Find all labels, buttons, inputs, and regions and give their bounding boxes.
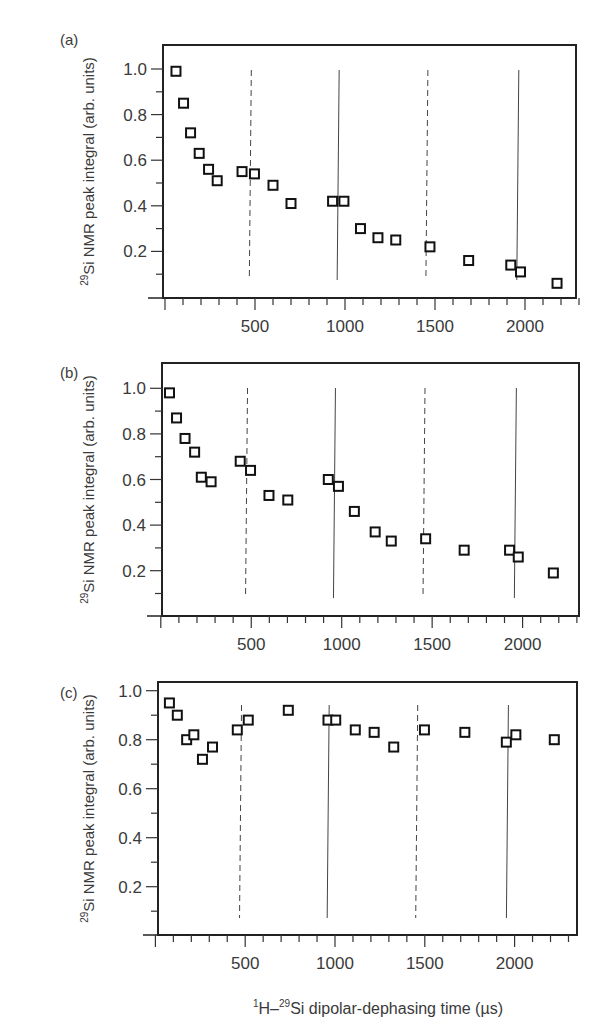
solid-reference-line bbox=[514, 388, 516, 598]
chart-canvas: (a)0.20.40.60.81.050010001500200029Si NM… bbox=[0, 0, 608, 1031]
x-axis-label-part-2: Si dipolar-dephasing time (µs) bbox=[290, 1000, 503, 1017]
panels: (a)0.20.40.60.81.050010001500200029Si NM… bbox=[60, 31, 579, 973]
x-axis-label-part-1: H– bbox=[259, 1000, 280, 1017]
y-axis-label: 29Si NMR peak integral (arb. units) bbox=[79, 694, 97, 923]
data-point-square-marker bbox=[356, 224, 365, 233]
dashed-reference-line bbox=[416, 705, 418, 918]
y-tick-label: 1.0 bbox=[118, 682, 142, 701]
data-point-square-marker bbox=[334, 482, 343, 491]
data-point-square-marker bbox=[464, 256, 473, 265]
x-tick-label: 2000 bbox=[496, 954, 534, 973]
dashed-reference-line bbox=[246, 388, 248, 598]
data-point-square-marker bbox=[505, 546, 514, 555]
data-point-square-marker bbox=[502, 738, 511, 747]
data-point-square-marker bbox=[549, 568, 558, 577]
y-tick-label: 0.4 bbox=[118, 829, 142, 848]
data-point-square-marker bbox=[181, 434, 190, 443]
x-axis-label: 1H–29Si dipolar-dephasing time (µs) bbox=[253, 998, 503, 1017]
data-point-square-marker bbox=[421, 534, 430, 543]
panel-label: (c) bbox=[60, 684, 78, 701]
data-point-square-marker bbox=[460, 728, 469, 737]
dashed-reference-line bbox=[423, 388, 425, 598]
y-tick-label: 0.8 bbox=[118, 731, 142, 750]
panel-b: (b)0.20.40.60.81.050010001500200029Si NM… bbox=[60, 363, 579, 654]
data-point-square-marker bbox=[207, 477, 216, 486]
data-point-square-marker bbox=[506, 261, 515, 270]
x-tick-label: 1000 bbox=[323, 635, 361, 654]
data-point-square-marker bbox=[244, 716, 253, 725]
data-point-square-marker bbox=[173, 711, 182, 720]
data-point-square-marker bbox=[189, 730, 198, 739]
data-point-square-marker bbox=[331, 716, 340, 725]
plot-frame bbox=[158, 682, 577, 935]
x-tick-label: 500 bbox=[231, 954, 259, 973]
y-axis-label: 29Si NMR peak integral (arb. units) bbox=[79, 57, 97, 286]
y-tick-label: 0.4 bbox=[123, 197, 147, 216]
data-point-square-marker bbox=[553, 279, 562, 288]
data-point-square-marker bbox=[179, 99, 188, 108]
data-point-square-marker bbox=[213, 176, 222, 185]
data-point-square-marker bbox=[171, 67, 180, 76]
x-tick-label: 2000 bbox=[504, 635, 542, 654]
y-tick-label: 1.0 bbox=[123, 60, 147, 79]
x-tick-label: 500 bbox=[237, 635, 265, 654]
data-point-square-marker bbox=[197, 473, 206, 482]
y-tick-label: 0.8 bbox=[123, 106, 147, 125]
data-point-square-marker bbox=[389, 743, 398, 752]
data-point-square-marker bbox=[351, 725, 360, 734]
y-tick-label: 0.6 bbox=[122, 471, 146, 490]
panel-label: (b) bbox=[60, 364, 78, 381]
x-tick-label: 1500 bbox=[416, 317, 454, 336]
solid-reference-line bbox=[337, 70, 339, 280]
y-tick-label: 0.4 bbox=[122, 516, 146, 535]
data-point-square-marker bbox=[264, 491, 273, 500]
x-tick-label: 1000 bbox=[316, 954, 354, 973]
data-point-square-marker bbox=[350, 507, 359, 516]
data-point-square-marker bbox=[269, 181, 278, 190]
solid-reference-line bbox=[327, 705, 329, 918]
data-point-square-marker bbox=[246, 466, 255, 475]
data-point-square-marker bbox=[339, 197, 348, 206]
x-tick-label: 500 bbox=[241, 317, 269, 336]
data-point-square-marker bbox=[371, 527, 380, 536]
y-tick-label: 0.6 bbox=[118, 780, 142, 799]
data-point-square-marker bbox=[190, 448, 199, 457]
x-tick-label: 1500 bbox=[406, 954, 444, 973]
data-point-square-marker bbox=[233, 725, 242, 734]
data-point-square-marker bbox=[238, 167, 247, 176]
panel-c: (c)0.20.40.60.81.050010001500200029Si NM… bbox=[60, 682, 577, 973]
panel-a: (a)0.20.40.60.81.050010001500200029Si NM… bbox=[60, 31, 579, 336]
x-tick-label: 2000 bbox=[506, 317, 544, 336]
y-tick-label: 0.2 bbox=[118, 878, 142, 897]
y-tick-label: 0.8 bbox=[122, 425, 146, 444]
data-point-square-marker bbox=[373, 233, 382, 242]
data-point-square-marker bbox=[391, 236, 400, 245]
solid-reference-line bbox=[517, 70, 519, 280]
data-point-square-marker bbox=[195, 149, 204, 158]
y-tick-label: 0.6 bbox=[123, 151, 147, 170]
y-tick-label: 1.0 bbox=[122, 379, 146, 398]
x-tick-label: 1500 bbox=[413, 635, 451, 654]
data-point-square-marker bbox=[236, 457, 245, 466]
data-point-square-marker bbox=[420, 725, 429, 734]
y-tick-label: 0.2 bbox=[123, 242, 147, 261]
data-point-square-marker bbox=[186, 128, 195, 137]
nmr-dephasing-figure: (a)0.20.40.60.81.050010001500200029Si NM… bbox=[0, 0, 608, 1031]
data-point-square-marker bbox=[516, 267, 525, 276]
data-point-square-marker bbox=[425, 242, 434, 251]
data-point-square-marker bbox=[287, 199, 296, 208]
dashed-reference-line bbox=[240, 705, 242, 918]
data-point-square-marker bbox=[165, 388, 174, 397]
data-point-square-marker bbox=[250, 169, 259, 178]
data-point-square-marker bbox=[328, 197, 337, 206]
data-point-square-marker bbox=[550, 735, 559, 744]
y-tick-label: 0.2 bbox=[122, 562, 146, 581]
data-point-square-marker bbox=[283, 496, 292, 505]
data-point-square-marker bbox=[370, 728, 379, 737]
data-point-square-marker bbox=[208, 743, 217, 752]
data-point-square-marker bbox=[172, 413, 181, 422]
data-point-square-marker bbox=[284, 706, 293, 715]
data-point-square-marker bbox=[204, 165, 213, 174]
panel-label: (a) bbox=[60, 31, 78, 48]
data-point-square-marker bbox=[511, 730, 520, 739]
